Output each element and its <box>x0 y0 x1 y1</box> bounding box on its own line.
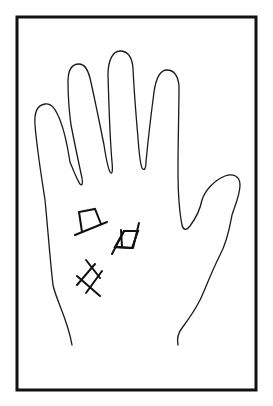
square-symbol-icon <box>75 209 107 235</box>
diagram-frame <box>17 17 256 390</box>
parallelogram-symbol-icon <box>112 223 139 254</box>
grille-symbol-icon <box>77 260 102 296</box>
palm-diagram <box>0 0 273 406</box>
hand-outline <box>35 51 240 345</box>
